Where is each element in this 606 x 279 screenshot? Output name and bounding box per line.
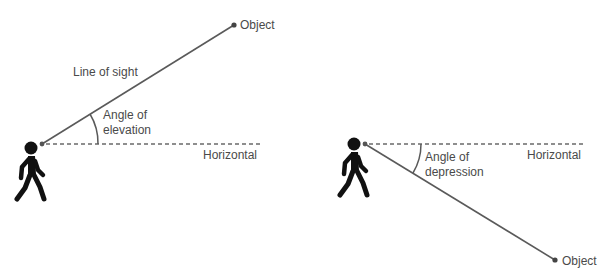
walking-person-icon	[17, 142, 44, 200]
angle-label-line2: elevation	[103, 123, 151, 137]
object-point	[231, 22, 236, 27]
line-of-sight-label: Line of sight	[73, 65, 138, 79]
depression-angle-arc	[413, 144, 421, 173]
object-label: Object	[562, 254, 597, 268]
eye-point	[40, 142, 45, 147]
angle-label-line1: Angle of	[425, 150, 470, 164]
horizontal-label: Horizontal	[203, 148, 257, 162]
horizontal-label: Horizontal	[527, 148, 581, 162]
eye-point	[363, 142, 368, 147]
angle-label-line1: Angle of	[103, 108, 148, 122]
angle-label-line2: depression	[425, 165, 484, 179]
depression-diagram: Angle of depression Horizontal Object	[340, 138, 597, 269]
elevation-angle-arc	[90, 114, 98, 144]
object-point	[552, 257, 557, 262]
elevation-diagram: Object Line of sight Angle of elevation …	[17, 18, 275, 199]
angles-diagram: Object Line of sight Angle of elevation …	[0, 0, 606, 279]
object-label: Object	[240, 18, 275, 32]
walking-person-icon	[340, 138, 367, 196]
